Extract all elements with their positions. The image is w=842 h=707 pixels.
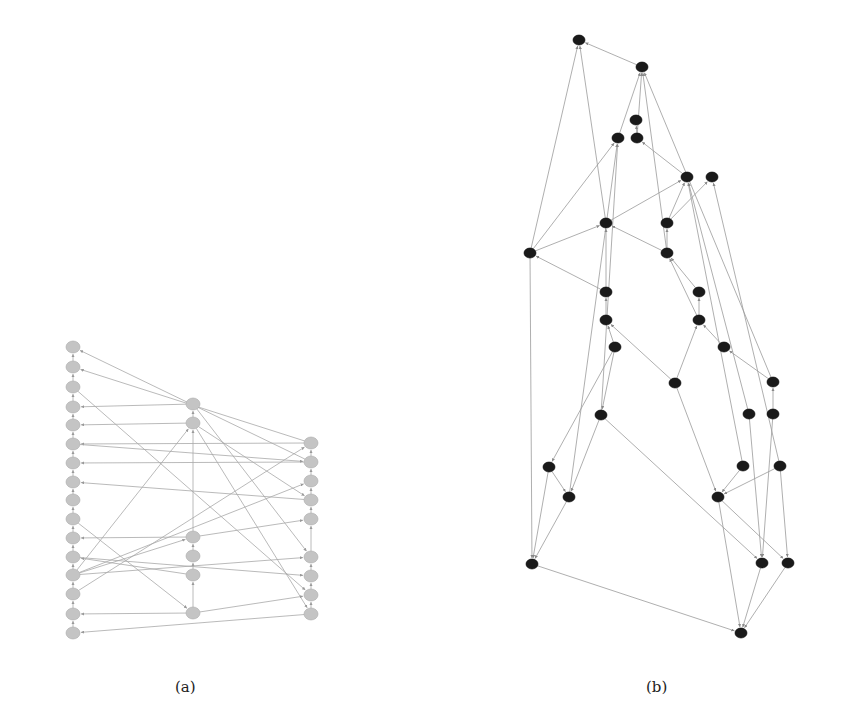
graph-node [304, 494, 318, 506]
graph-node [573, 35, 585, 45]
graph-edge [677, 326, 697, 379]
graph-node [661, 248, 673, 258]
graph-node [600, 287, 612, 297]
graph-panel-b [524, 35, 794, 638]
graph-node [693, 287, 705, 297]
graph-edge [533, 472, 548, 558]
graph-edge [538, 566, 735, 631]
graph-node [304, 456, 318, 468]
graph-node [526, 559, 538, 569]
graph-node [66, 551, 80, 563]
graph-edge [611, 324, 671, 379]
graph-node [66, 401, 80, 413]
graph-edge [612, 226, 662, 250]
graph-edge [743, 568, 761, 627]
graph-edge [197, 409, 307, 551]
edge-layer-b [530, 43, 787, 631]
graph-edge [642, 142, 682, 174]
graph-edge [670, 259, 697, 316]
graph-figure [0, 0, 842, 707]
graph-edge [580, 46, 605, 218]
graph-node [304, 475, 318, 487]
graph-edge [81, 404, 186, 407]
graph-edge [713, 183, 778, 461]
graph-edge [552, 471, 566, 491]
graph-node [304, 589, 318, 601]
graph-node [782, 558, 794, 568]
graph-node [631, 133, 643, 143]
graph-node [66, 438, 80, 450]
caption-panel-a: (a) [175, 678, 196, 696]
graph-edge [78, 523, 187, 608]
graph-node [304, 570, 318, 582]
graph-node [186, 417, 200, 429]
graph-node [661, 218, 673, 228]
graph-edge [200, 520, 303, 536]
graph-node [774, 461, 786, 471]
graph-edge [536, 256, 601, 289]
graph-edge [762, 419, 772, 557]
graph-node [743, 409, 755, 419]
graph-node [66, 627, 80, 639]
node-layer-b [524, 35, 794, 638]
graph-node [66, 608, 80, 620]
graph-edge [531, 46, 578, 248]
graph-node [543, 462, 555, 472]
graph-edge [608, 326, 613, 342]
graph-node [718, 342, 730, 352]
graph-node [66, 457, 80, 469]
graph-edge [200, 596, 303, 612]
graph-node [66, 419, 80, 431]
graph-node [66, 476, 80, 488]
graph-node [735, 628, 747, 638]
graph-node [66, 569, 80, 581]
graph-edge [530, 258, 532, 558]
graph-edge [677, 388, 716, 492]
graph-node [186, 607, 200, 619]
graph-node [186, 398, 200, 410]
graph-node [66, 513, 80, 525]
graph-edge [722, 501, 783, 559]
graph-node [66, 361, 80, 373]
graph-edge [671, 258, 696, 288]
graph-node [304, 437, 318, 449]
graph-edge [719, 502, 740, 627]
graph-panel-a [66, 341, 318, 639]
graph-edge [535, 502, 566, 559]
graph-node [737, 461, 749, 471]
graph-edge [722, 470, 740, 492]
graph-edge [77, 429, 189, 570]
graph-node [609, 342, 621, 352]
graph-node [66, 341, 80, 353]
node-layer-a [66, 341, 318, 639]
graph-node [304, 551, 318, 563]
graph-edge [81, 613, 186, 614]
graph-edge [780, 471, 787, 557]
graph-node [706, 172, 718, 182]
graph-node [693, 315, 705, 325]
graph-node [681, 172, 693, 182]
graph-edge [535, 226, 599, 251]
graph-edge [585, 43, 636, 65]
graph-node [636, 62, 648, 72]
graph-node [524, 248, 536, 258]
graph-edge [81, 462, 304, 463]
graph-node [304, 608, 318, 620]
graph-node [767, 377, 779, 387]
graph-edge [199, 427, 305, 496]
graph-node [767, 409, 779, 419]
graph-node [612, 133, 624, 143]
graph-edge [571, 420, 599, 492]
graph-edge [81, 443, 304, 444]
graph-edge [601, 144, 617, 410]
graph-node [756, 558, 768, 568]
graph-node [712, 492, 724, 502]
graph-edge [552, 352, 613, 462]
graph-node [600, 315, 612, 325]
graph-node [66, 532, 80, 544]
graph-node [186, 569, 200, 581]
graph-edge [81, 423, 186, 425]
graph-edge [196, 428, 307, 608]
graph-node [630, 115, 642, 125]
graph-node [66, 381, 80, 393]
